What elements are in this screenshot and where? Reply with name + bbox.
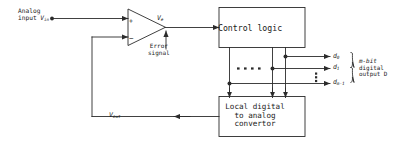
analog-input-terminal-dot (50, 17, 54, 21)
digital-output-0-label: d0 (333, 53, 339, 61)
output-bus-line1: m-bit (359, 58, 377, 64)
analog-input-label-line1: Analog (18, 7, 40, 14)
opamp-minus-terminal-label: − (129, 35, 134, 43)
feedback-voltage-subscript: out (113, 114, 121, 119)
output-ellipsis-vertical (315, 73, 317, 83)
error-voltage-label: Ve (157, 15, 163, 23)
output-bus-line2: digital (359, 65, 384, 71)
digital-output-1-subscript: 1 (337, 66, 340, 71)
digital-output-0-subscript: 0 (337, 55, 340, 60)
error-voltage-subscript: e (161, 17, 164, 22)
bus-ellipsis-horizontal (237, 67, 261, 69)
output-bus-brace (351, 53, 354, 83)
error-signal-line2: signal (148, 49, 170, 56)
output-bus-line3: output D (359, 71, 387, 77)
bus-junction-dot-1 (271, 67, 275, 71)
analog-input-label-line2: input (18, 14, 40, 21)
diagram-vector-layer (0, 0, 396, 150)
bus-junction-dot-m (228, 82, 232, 86)
block-diagram-canvas: Analoginput Vin + − Ve Errorsignal Contr… (0, 0, 396, 150)
feedback-voltage-label: Vout (109, 112, 121, 120)
bus-junction-dot-0 (284, 55, 288, 59)
local-dac-label: Local digitalto analogconvertor (219, 103, 291, 129)
analog-input-label: Analoginput Vin (18, 8, 49, 23)
digital-output-m-label: dm-1 (333, 79, 345, 87)
control-logic-label: Control logic (218, 24, 282, 33)
digital-output-m-subscript: m-1 (337, 81, 345, 86)
digital-output-1-label: d1 (333, 64, 339, 72)
error-signal-label: Errorsignal (148, 43, 170, 56)
output-bus-label: m-bitdigitaloutput D (359, 58, 387, 78)
opamp-plus-terminal-label: + (129, 18, 133, 25)
analog-input-subscript: in (44, 17, 49, 22)
local-dac-line3: convertor (234, 119, 275, 128)
